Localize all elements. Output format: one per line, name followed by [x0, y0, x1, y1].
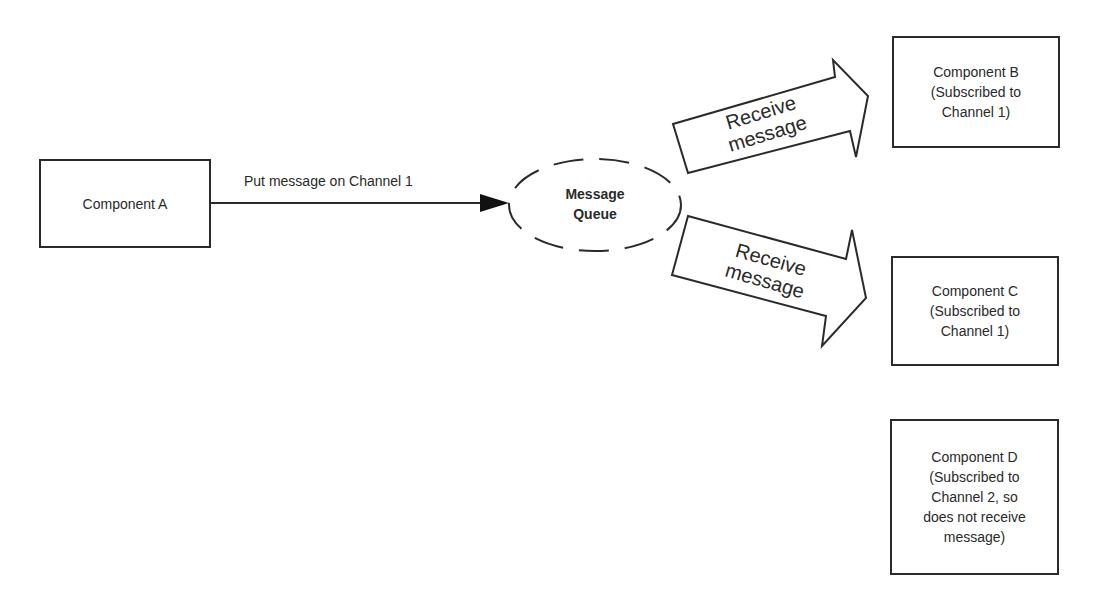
component-a-box: Component A — [39, 159, 211, 248]
component-d-box: Component D (Subscribed to Channel 2, so… — [890, 419, 1059, 575]
component-b-box: Component B (Subscribed to Channel 1) — [892, 36, 1060, 148]
component-d-label: Component D (Subscribed to Channel 2, so… — [923, 447, 1026, 547]
publish-arrowhead-icon — [480, 194, 509, 212]
component-c-label: Component C (Subscribed to Channel 1) — [930, 281, 1020, 341]
component-a-label: Component A — [83, 194, 168, 214]
message-queue-label: Message Queue — [545, 184, 645, 224]
publish-edge-label: Put message on Channel 1 — [244, 173, 413, 189]
component-c-box: Component C (Subscribed to Channel 1) — [891, 256, 1059, 366]
component-b-label: Component B (Subscribed to Channel 1) — [931, 62, 1021, 122]
